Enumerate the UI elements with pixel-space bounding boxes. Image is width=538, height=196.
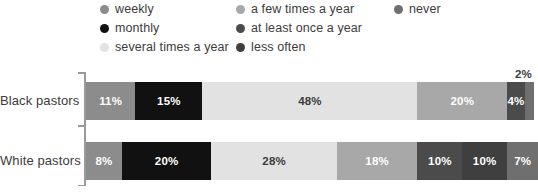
legend-item-label: weekly xyxy=(115,0,154,18)
bar-segment-value: 8% xyxy=(95,155,112,167)
row-label-black-pastors: Black pastors xyxy=(0,82,78,120)
bar-segment-a-few-times-a-year[interactable]: 20% xyxy=(417,82,507,120)
bar-segment-never[interactable]: 7% xyxy=(507,142,538,180)
bar-segment-monthly[interactable]: 15% xyxy=(135,82,202,120)
bar-segment-less-often[interactable]: 10% xyxy=(462,142,507,180)
bar-segment-value: 10% xyxy=(473,155,497,167)
bar-segment-monthly[interactable]: 20% xyxy=(122,142,212,180)
legend-dot-icon xyxy=(100,24,109,33)
bar-segment-value: 48% xyxy=(298,95,322,107)
legend-dot-icon xyxy=(100,43,109,52)
legend-dot-icon xyxy=(236,5,245,14)
legend-item-weekly[interactable]: weekly xyxy=(100,0,229,18)
bar-segment-a-few-times-a-year[interactable]: 18% xyxy=(337,142,418,180)
bar-segment-value: 20% xyxy=(155,155,179,167)
legend-dot-icon xyxy=(100,5,109,14)
legend-item-a-few-times-a-year[interactable]: a few times a year xyxy=(236,0,362,18)
chart-row-black-pastors: Black pastors 11%15%48%20%4% xyxy=(0,82,534,120)
chart-legend: weeklymonthlyseveral times a year a few … xyxy=(0,0,534,62)
stacked-bar-chart: Black pastors 11%15%48%20%4% White pasto… xyxy=(0,62,534,196)
legend-item-less-often[interactable]: less often xyxy=(236,38,362,56)
legend-item-label: a few times a year xyxy=(251,0,354,18)
axis-tick-middle xyxy=(78,125,85,127)
bar-segment-at-least-once-a-year[interactable]: 4% xyxy=(507,82,525,120)
legend-dot-icon xyxy=(394,5,403,14)
axis-tick-bottom xyxy=(78,185,85,187)
bar-segment-value: 11% xyxy=(99,95,122,107)
bar-segment-value: 7% xyxy=(514,155,531,167)
legend-column-1: weeklymonthlyseveral times a year xyxy=(100,0,229,57)
legend-column-2: a few times a yearat least once a yearle… xyxy=(236,0,362,57)
chart-row-white-pastors: White pastors 8%20%28%18%10%10%7% xyxy=(0,142,534,180)
legend-item-monthly[interactable]: monthly xyxy=(100,19,229,37)
legend-item-label: less often xyxy=(251,38,306,56)
bar-segment-several-times-a-year[interactable]: 28% xyxy=(211,142,336,180)
bar-segment-value: 18% xyxy=(365,155,389,167)
legend-column-3: never xyxy=(394,0,441,19)
bar-segment-less-often[interactable] xyxy=(525,82,534,120)
legend-dot-icon xyxy=(236,43,245,52)
legend-dot-icon xyxy=(236,24,245,33)
bar-segment-value: 4% xyxy=(508,95,525,107)
bar-segment-weekly[interactable]: 11% xyxy=(86,82,135,120)
legend-item-label: several times a year xyxy=(115,38,229,56)
stacked-bar-black-pastors: 11%15%48%20%4% xyxy=(86,82,534,120)
bar-segment-value: 20% xyxy=(450,95,474,107)
legend-item-several-times-a-year[interactable]: several times a year xyxy=(100,38,229,56)
bar-segment-value-callout: 2% xyxy=(515,68,532,80)
bar-segment-at-least-once-a-year[interactable]: 10% xyxy=(417,142,462,180)
bar-segment-value: 28% xyxy=(262,155,286,167)
legend-item-label: never xyxy=(409,0,441,18)
stacked-bar-white-pastors: 8%20%28%18%10%10%7% xyxy=(86,142,534,180)
bar-segment-several-times-a-year[interactable]: 48% xyxy=(202,82,417,120)
bar-segment-value: 15% xyxy=(157,95,181,107)
bar-segment-value: 10% xyxy=(428,155,452,167)
legend-item-label: at least once a year xyxy=(251,19,362,37)
bar-segment-weekly[interactable]: 8% xyxy=(86,142,122,180)
legend-item-never[interactable]: never xyxy=(394,0,441,18)
row-label-white-pastors: White pastors xyxy=(0,142,78,180)
axis-tick-top xyxy=(78,72,85,74)
legend-item-label: monthly xyxy=(115,19,159,37)
legend-item-at-least-once-a-year[interactable]: at least once a year xyxy=(236,19,362,37)
